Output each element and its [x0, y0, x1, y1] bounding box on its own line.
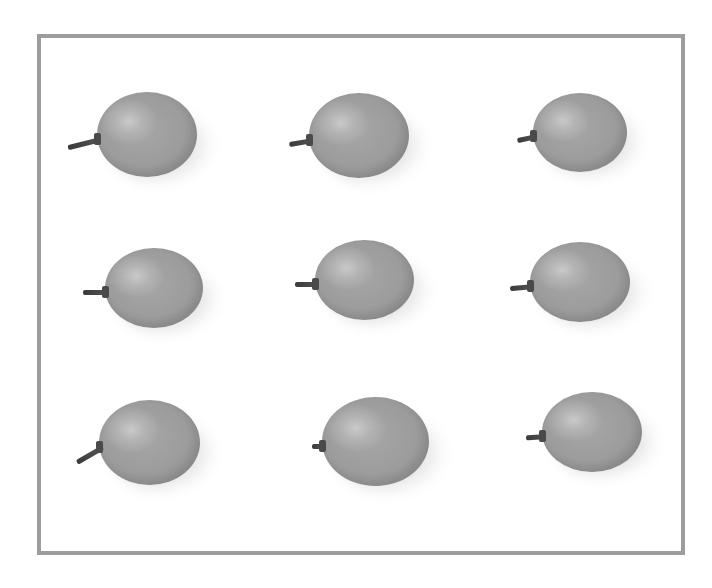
- grape: [97, 92, 197, 177]
- grape-stem-cap: [312, 278, 319, 290]
- grape-stem-cap: [96, 441, 103, 453]
- grape-berry: [105, 248, 203, 328]
- grape-berry: [542, 392, 642, 472]
- grape-berry: [315, 240, 414, 320]
- grape: [99, 400, 200, 485]
- grape-berry: [97, 92, 197, 177]
- grape: [315, 240, 414, 320]
- grape-stem-cap: [539, 430, 546, 442]
- grape-berry: [533, 93, 627, 172]
- grape: [533, 93, 627, 172]
- grape-berry: [322, 397, 429, 486]
- grape: [530, 242, 630, 322]
- grape-stem-cap: [527, 280, 534, 292]
- grape-stem-cap: [319, 440, 326, 452]
- grape-berry: [530, 242, 630, 322]
- grape-berry: [309, 93, 409, 178]
- grape-berry: [99, 400, 200, 485]
- grape: [105, 248, 203, 328]
- grape: [309, 93, 409, 178]
- grape-stem-cap: [530, 130, 537, 142]
- grape: [542, 392, 642, 472]
- grape-stem-cap: [306, 134, 313, 146]
- grape: [322, 397, 429, 486]
- grape-stem-cap: [94, 133, 101, 145]
- grape-stem-cap: [102, 286, 109, 298]
